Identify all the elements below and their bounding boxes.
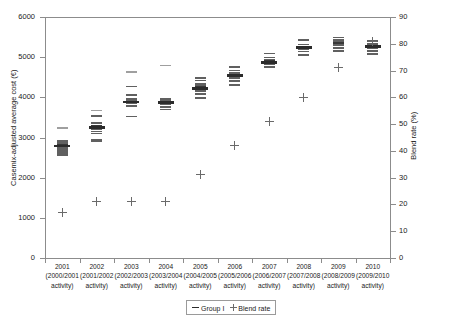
y-tick-right [391,17,396,18]
x-label-year: 2010 [356,262,391,271]
x-label-year: 2005 [183,262,218,271]
group-i-data-marker [298,44,309,46]
y-tick-label-left: 5000 [18,53,35,61]
y-tick-label-right: 90 [399,13,407,21]
group-i-data-marker [91,122,102,124]
group-i-data-marker [126,116,137,118]
y-tick-right [391,231,396,232]
y-tick-label-right: 40 [399,147,407,155]
legend-plus-icon [230,304,237,311]
group-i-data-marker [229,73,240,75]
y-axis-right-title: Blend rate (%) [410,76,418,196]
x-label-activity: activity) [252,281,287,290]
y-tick-label-left: 2000 [18,174,35,182]
y-tick-label-left: 3000 [18,134,35,142]
y-tick-right [391,71,396,72]
y-tick-label-right: 70 [399,67,407,75]
blend-rate-data-marker [368,37,377,46]
blend-rate-data-marker [161,197,170,206]
group-i-data-marker [160,106,171,108]
group-i-data-marker [333,45,344,47]
plot-markers-layer [45,17,390,258]
x-label-period: (2005/2006 [218,271,253,280]
group-i-data-marker [195,97,206,99]
y-tick-right [391,258,396,259]
x-axis-category-label: 2006(2005/2006activity) [218,262,253,290]
group-i-data-marker [229,70,240,72]
group-i-data-marker [298,46,309,48]
x-label-activity: activity) [287,281,322,290]
group-i-data-marker [229,72,240,74]
blend-rate-data-marker [230,141,239,150]
group-i-data-marker [57,144,68,146]
group-i-data-marker [91,139,102,141]
blend-rate-data-marker [265,117,274,126]
group-i-data-marker [160,65,171,67]
y-tick-label-left: 4000 [18,93,35,101]
y-tick-right [391,124,396,125]
y-tick-label-right: 80 [399,40,407,48]
x-axis-category-label: 2008(2007/2008activity) [287,262,322,290]
y-tick-label-right: 50 [399,120,407,128]
blend-rate-data-marker [334,63,343,72]
group-i-data-marker [264,57,275,59]
y-tick-right [391,97,396,98]
y-tick-label-left: 0 [31,254,35,262]
blend-rate-data-marker [299,93,308,102]
group-i-data-marker [126,71,137,73]
blend-rate-data-marker [58,208,67,217]
x-axis-labels: 2001(2000/2001activity)2002(2001/2002act… [45,262,391,304]
x-axis-category-label: 2004(2003/2004activity) [149,262,184,290]
y-tick-label-right: 0 [399,254,403,262]
y-tick-right [391,178,396,179]
x-label-period: (2000/2001 [45,271,80,280]
group-i-data-marker [298,39,309,41]
x-label-period: (2004/2005 [183,271,218,280]
group-i-data-marker [195,83,206,85]
x-label-year: 2001 [45,262,80,271]
group-i-data-marker [91,110,102,112]
group-i-data-marker [264,59,275,61]
x-label-activity: activity) [149,281,184,290]
x-label-period: (2002/2003 [114,271,149,280]
blend-rate-data-marker [92,197,101,206]
x-axis-category-label: 2009(2008/2009activity) [321,262,356,290]
group-i-data-marker [229,80,240,82]
group-i-data-marker [57,147,68,149]
x-label-year: 2008 [287,262,322,271]
group-i-data-marker [333,50,344,52]
x-label-period: (2006/2007 [252,271,287,280]
x-label-period: (2007/2008 [287,271,322,280]
x-label-period: (2003/2004 [149,271,184,280]
group-i-data-marker [333,37,344,39]
group-i-data-marker [91,131,102,133]
group-i-data-marker [195,93,206,95]
x-label-activity: activity) [80,281,115,290]
group-i-data-marker [333,39,344,41]
group-i-data-marker [195,90,206,92]
group-i-data-marker [57,142,68,144]
group-i-data-marker [126,100,137,102]
y-tick-label-right: 20 [399,200,407,208]
group-i-data-marker [229,77,240,79]
group-i-data-marker [57,152,68,154]
y-tick-label-left: 1000 [18,214,35,222]
x-axis-category-label: 2005(2004/2005activity) [183,262,218,290]
x-label-activity: activity) [218,281,253,290]
x-axis-category-label: 2007(2006/2007activity) [252,262,287,290]
x-axis-category-label: 2010(2009/2010activity) [356,262,391,290]
group-i-data-marker [91,125,102,127]
x-axis-category-label: 2002(2001/2002activity) [80,262,115,290]
group-i-data-marker [264,66,275,68]
group-i-data-marker [160,100,171,102]
y-tick-right [391,151,396,152]
x-label-activity: activity) [114,281,149,290]
legend-dash-icon [192,307,199,309]
y-tick-label-right: 30 [399,174,407,182]
x-axis-category-label: 2001(2000/2001activity) [45,262,80,290]
group-i-data-marker [126,94,137,96]
group-i-data-marker [57,140,68,142]
x-label-year: 2009 [321,262,356,271]
y-tick-label-right: 10 [399,227,407,235]
x-axis-category-label: 2003(2002/2003activity) [114,262,149,290]
